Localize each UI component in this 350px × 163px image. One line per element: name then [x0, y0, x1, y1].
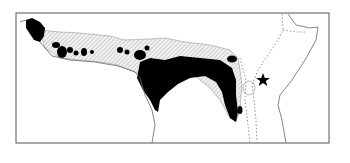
- core-range-west: [26, 18, 45, 42]
- boundary-dotted-3: [240, 58, 250, 143]
- star-icon: [256, 73, 270, 86]
- lake-outline: [243, 81, 255, 95]
- map-canvas: [0, 0, 350, 163]
- east-coastline: [278, 14, 318, 143]
- distribution-map: [0, 0, 350, 163]
- boundary-dotted-2: [283, 30, 305, 32]
